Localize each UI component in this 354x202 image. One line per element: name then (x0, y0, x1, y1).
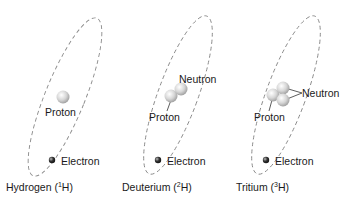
neutron-label: Neutron (179, 74, 216, 85)
caption-suffix: H) (62, 181, 73, 193)
caption-prefix: Tritium ( (236, 181, 274, 193)
hydrogen-caption: Hydrogen (1H) (6, 182, 73, 193)
proton-label: Proton (149, 112, 180, 123)
deuterium-caption: Deuterium (2H) (122, 182, 192, 193)
caption-suffix: H) (278, 181, 289, 193)
proton-leader-line (269, 100, 272, 111)
isotope-diagram (0, 0, 354, 202)
proton-label: Proton (45, 107, 76, 118)
proton-label: Proton (254, 112, 285, 123)
electron-label: Electron (61, 156, 100, 167)
neutron-leader-line (287, 93, 302, 99)
electron-label: Electron (167, 156, 206, 167)
electron-sphere (155, 157, 161, 163)
neutron-sphere (277, 94, 290, 107)
neutron-label: Neutron (302, 88, 339, 99)
caption-suffix: H) (181, 181, 192, 193)
tritium-caption: Tritium (3H) (236, 182, 289, 193)
electron-label: Electron (275, 156, 314, 167)
electron-sphere (263, 157, 269, 163)
proton-sphere (57, 91, 70, 104)
caption-prefix: Hydrogen ( (6, 181, 58, 193)
caption-prefix: Deuterium ( (122, 181, 177, 193)
neutron-sphere (277, 82, 290, 95)
electron-sphere (49, 157, 55, 163)
